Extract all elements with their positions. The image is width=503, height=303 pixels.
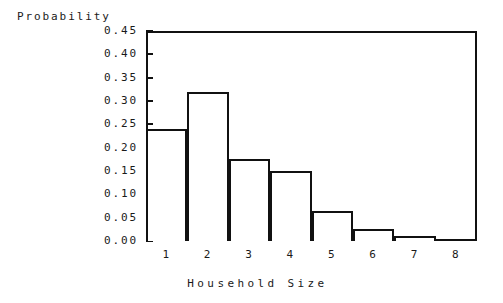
y-tick-label: 0.10: [50, 186, 138, 201]
y-tick-label: 0.40: [50, 46, 138, 61]
bars-container: [146, 31, 477, 241]
x-axis-title: Household Size: [0, 277, 503, 291]
x-tick-label: 4: [270, 248, 311, 262]
x-tick-label: 3: [229, 248, 270, 262]
x-axis-title-text: Household Size: [175, 277, 327, 290]
x-tick-label: 6: [353, 248, 394, 262]
y-tick-label: 0.35: [50, 70, 138, 85]
x-tick-label: 2: [187, 248, 228, 262]
x-tick-label: 7: [394, 248, 435, 262]
histogram-bar: [312, 211, 353, 241]
x-tick-label: 5: [312, 248, 353, 262]
y-tick-label: 0.25: [50, 116, 138, 131]
histogram-bar: [270, 171, 311, 241]
histogram-bar: [353, 229, 394, 241]
histogram-bar: [146, 129, 187, 241]
y-tick-label: 0.20: [50, 140, 138, 155]
y-tick-label: 0.45: [50, 23, 138, 38]
histogram-bar: [187, 92, 228, 241]
histogram-bar: [394, 236, 435, 241]
histogram-chart: Probability 0.450.400.350.300.250.200.15…: [0, 0, 503, 303]
x-tick-label: 1: [146, 248, 187, 262]
y-tick-label: 0.00: [50, 233, 138, 248]
y-tick-label: 0.30: [50, 93, 138, 108]
y-tick-label: 0.05: [50, 210, 138, 225]
y-tick-label: 0.15: [50, 163, 138, 178]
x-tick-label: 8: [436, 248, 477, 262]
histogram-bar: [229, 159, 270, 241]
